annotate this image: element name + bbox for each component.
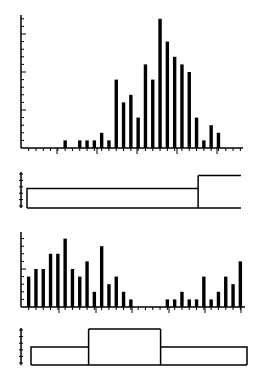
bar <box>202 140 205 148</box>
bar <box>63 140 66 148</box>
bar <box>239 261 242 307</box>
bar <box>188 299 191 307</box>
bar <box>85 261 88 307</box>
bar <box>217 292 220 307</box>
bar <box>188 72 191 148</box>
bar <box>144 64 147 148</box>
bar <box>180 292 183 307</box>
bar <box>173 57 176 148</box>
bar <box>166 299 169 307</box>
bar <box>115 277 118 307</box>
bar <box>151 80 154 148</box>
bar <box>231 284 234 307</box>
bar <box>78 277 81 307</box>
bar <box>107 284 110 307</box>
bar <box>42 269 45 307</box>
bar <box>100 246 103 307</box>
bar <box>63 239 66 307</box>
bar <box>49 254 52 307</box>
bar <box>56 254 59 307</box>
bar <box>195 299 198 307</box>
bar <box>78 140 81 148</box>
bar <box>71 269 74 307</box>
bar <box>209 125 212 148</box>
bar <box>195 118 198 148</box>
bar <box>166 42 169 148</box>
figure-canvas <box>0 0 259 376</box>
bar <box>122 102 125 148</box>
bar <box>217 133 220 148</box>
bar <box>136 118 139 148</box>
bar <box>100 133 103 148</box>
bar <box>93 140 96 148</box>
bar <box>93 292 96 307</box>
step-line <box>27 176 241 209</box>
bar <box>158 19 161 148</box>
step-line <box>31 329 247 365</box>
bar <box>202 277 205 307</box>
bar <box>129 95 132 148</box>
bar <box>34 269 37 307</box>
bar <box>224 277 227 307</box>
bar <box>27 277 30 307</box>
bar <box>122 292 125 307</box>
bar <box>115 80 118 148</box>
bar <box>107 140 110 148</box>
bar <box>180 64 183 148</box>
bar <box>129 299 132 307</box>
bar <box>209 299 212 307</box>
bar <box>173 299 176 307</box>
bar <box>85 140 88 148</box>
